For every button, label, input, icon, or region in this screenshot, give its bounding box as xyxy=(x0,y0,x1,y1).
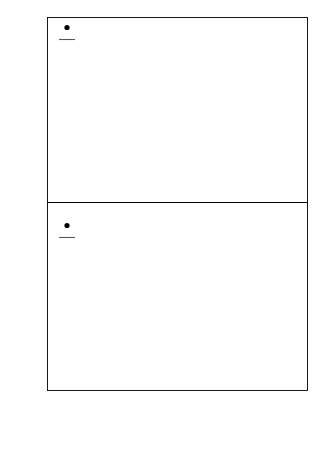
bottom-panel-frame xyxy=(48,203,308,391)
two-panel-chart xyxy=(0,0,324,450)
legend-observed-marker-icon xyxy=(64,25,69,30)
figure-container xyxy=(0,0,324,450)
top-panel-legend xyxy=(59,25,75,40)
legend-observed-marker-icon xyxy=(64,223,69,228)
bottom-panel-legend xyxy=(59,223,75,238)
top-panel xyxy=(48,18,308,203)
bottom-panel xyxy=(48,203,308,391)
top-panel-frame xyxy=(48,18,308,203)
